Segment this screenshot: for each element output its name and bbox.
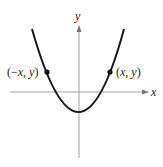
y-axis-arrowhead <box>77 25 82 32</box>
parabola-diagram: x y (−x, y) (x, y) <box>0 0 163 167</box>
point-right <box>107 69 112 74</box>
point-left <box>44 69 49 74</box>
point-right-label: (x, y) <box>116 65 141 79</box>
x-axis-label: x <box>150 85 157 99</box>
point-left-label: (−x, y) <box>7 65 38 79</box>
x-axis-arrowhead <box>142 90 149 95</box>
y-axis-label: y <box>74 9 81 23</box>
